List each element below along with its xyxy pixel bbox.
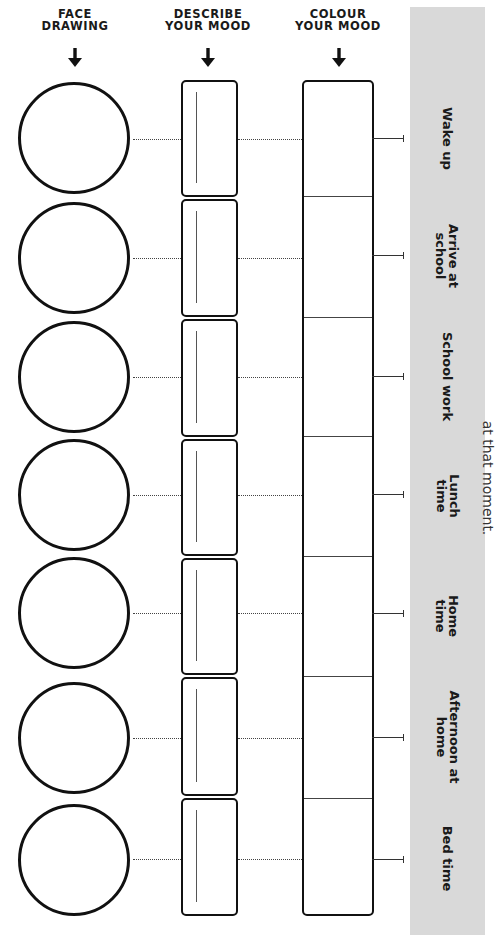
row-label-wake-up: Wake up — [410, 80, 485, 197]
connector-line — [238, 139, 302, 140]
colour-divider — [304, 317, 372, 318]
connector-tick — [372, 138, 403, 139]
header-face-line2: DRAWING — [22, 20, 128, 32]
writing-guide-line — [196, 689, 197, 782]
row-label-school-work: School work — [410, 316, 485, 436]
writing-guide-line — [196, 451, 197, 542]
describe-mood-box-wake-up[interactable] — [181, 80, 238, 197]
colour-mood-column[interactable] — [302, 80, 374, 916]
header-describe-mood: DESCRIBE YOUR MOOD — [150, 8, 266, 32]
connector-tick — [372, 737, 403, 738]
colour-divider — [304, 798, 372, 799]
writing-guide-line — [196, 570, 197, 661]
colour-divider — [304, 436, 372, 437]
face-drawing-circle-wake-up[interactable] — [18, 82, 130, 194]
face-drawing-circle-lunch-time[interactable] — [18, 439, 130, 551]
side-note-text: at that moment. — [480, 398, 496, 558]
connector-line — [133, 139, 181, 140]
connector-tick — [372, 376, 403, 377]
connector-line — [133, 613, 181, 614]
face-drawing-circle-bed-time[interactable] — [18, 804, 130, 916]
row-label-home-time: Home time — [410, 556, 485, 676]
header-colour-mood: COLOUR YOUR MOOD — [280, 8, 396, 32]
header-describe-line2: YOUR MOOD — [150, 20, 266, 32]
connector-line — [238, 738, 302, 739]
writing-guide-line — [196, 331, 197, 423]
connector-line — [238, 613, 302, 614]
arrow-down-icon — [332, 48, 346, 68]
connector-line — [133, 377, 181, 378]
writing-guide-line — [196, 211, 197, 303]
writing-guide-line — [196, 92, 197, 183]
connector-line — [238, 377, 302, 378]
face-drawing-circle-arrive-at-school[interactable] — [18, 202, 130, 314]
colour-divider — [304, 556, 372, 557]
arrow-down-icon — [201, 48, 215, 68]
row-label-bed-time: Bed time — [410, 798, 485, 918]
connector-tick — [372, 859, 403, 860]
face-drawing-circle-school-work[interactable] — [18, 321, 130, 433]
header-face-drawing: FACE DRAWING — [22, 8, 128, 32]
arrow-down-icon — [68, 48, 82, 68]
face-drawing-circle-home-time[interactable] — [18, 557, 130, 669]
connector-line — [238, 859, 302, 860]
row-label-arrive-at-school: Arrive at school — [410, 196, 485, 316]
describe-mood-box-bed-time[interactable] — [181, 798, 238, 916]
colour-divider — [304, 676, 372, 677]
row-label-lunch-time: Lunch time — [410, 436, 485, 556]
connector-tick — [372, 613, 403, 614]
describe-mood-box-arrive-at-school[interactable] — [181, 199, 238, 317]
connector-line — [133, 495, 181, 496]
connector-line — [133, 738, 181, 739]
connector-line — [133, 859, 181, 860]
describe-mood-box-lunch-time[interactable] — [181, 439, 238, 556]
connector-tick — [372, 494, 403, 495]
header-colour-line2: YOUR MOOD — [280, 20, 396, 32]
colour-divider — [304, 196, 372, 197]
describe-mood-box-home-time[interactable] — [181, 558, 238, 675]
describe-mood-box-school-work[interactable] — [181, 319, 238, 437]
connector-line — [238, 495, 302, 496]
face-drawing-circle-afternoon-at-home[interactable] — [18, 682, 130, 794]
side-note: at that moment. — [478, 400, 498, 560]
describe-mood-box-afternoon-at-home[interactable] — [181, 677, 238, 796]
row-label-afternoon-at-home: Afternoon at home — [410, 676, 485, 798]
writing-guide-line — [196, 810, 197, 902]
connector-tick — [372, 255, 403, 256]
connector-line — [133, 258, 181, 259]
connector-line — [238, 258, 302, 259]
